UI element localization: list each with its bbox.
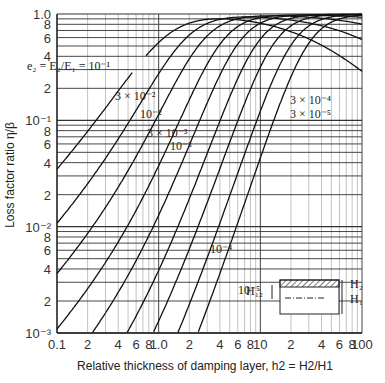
h2-label: H₂ [350, 277, 363, 291]
damping-layer-rect [280, 280, 339, 287]
x-tick-label: 2 [186, 337, 193, 352]
curve-label: 3 × 10⁻² [115, 89, 156, 103]
y-tick-label: 2 [44, 188, 51, 203]
x-tick-label: 100 [351, 337, 373, 352]
series-line [57, 16, 362, 274]
x-tick-label: 4 [318, 337, 325, 352]
curve-label: e₂ = E₂/E₁ = 10⁻¹ [27, 59, 110, 73]
x-tick-label: 2 [84, 337, 91, 352]
y-tick-label: 10⁻³ [25, 326, 51, 341]
curve-labels: e₂ = E₂/E₁ = 10⁻¹3 × 10⁻²10⁻²3 × 10⁻³10⁻… [27, 59, 331, 297]
curve-label: 3 × 10⁻⁵ [290, 107, 331, 121]
x-tick-label: 6 [234, 337, 241, 352]
h12-label: H₁₂ [246, 284, 263, 298]
curve-label: 10⁻² [140, 107, 162, 121]
curve-label: 10⁻³ [170, 139, 192, 153]
curve-label: 10⁻⁴ [210, 242, 232, 256]
y-tick-label: 2 [44, 81, 51, 96]
x-axis-label: Relative thickness of damping layer, h2 … [77, 359, 333, 373]
x-tick-label: 4 [115, 337, 122, 352]
y-tick-label: 6 [44, 31, 51, 46]
x-tick-label: 2 [287, 337, 294, 352]
x-tick-label: 4 [216, 337, 223, 352]
y-tick-label: 6 [44, 137, 51, 152]
curve-label: 3 × 10⁻⁴ [290, 93, 331, 107]
x-tick-label: 1.0 [150, 337, 168, 352]
curve-label: 3 × 10⁻³ [147, 126, 188, 140]
y-tick-label: 4 [44, 262, 51, 277]
y-tick-label: 6 [44, 243, 51, 258]
loss-factor-chart: 0.124681.024681024681001.0864210⁻¹864210… [0, 0, 385, 383]
x-tick-label: 6 [132, 337, 139, 352]
x-tick-label: 10 [253, 337, 267, 352]
y-tick-label: 4 [44, 156, 51, 171]
y-axis-label: Loss factor ratio η/β [3, 122, 17, 228]
h1-label: H₁ [350, 292, 363, 306]
y-tick-label: 2 [44, 294, 51, 309]
x-tick-label: 6 [336, 337, 343, 352]
